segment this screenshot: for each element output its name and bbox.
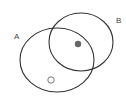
- set-b-label: B: [116, 16, 121, 25]
- open-point-icon: [48, 77, 54, 83]
- set-a-label: A: [14, 32, 20, 41]
- filled-point-icon: [75, 41, 81, 47]
- set-a-ellipse: [20, 28, 94, 92]
- set-b-ellipse: [49, 13, 113, 71]
- venn-diagram: A B: [0, 0, 126, 97]
